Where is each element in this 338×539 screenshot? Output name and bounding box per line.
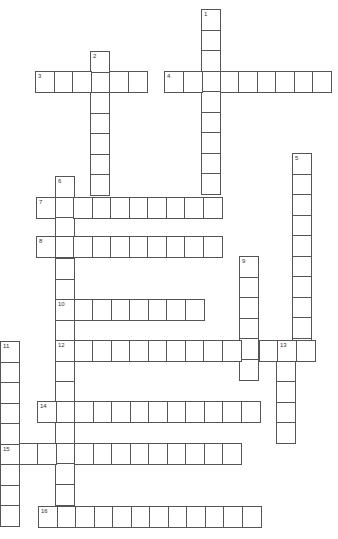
crossword-cell[interactable] (92, 197, 112, 219)
crossword-cell[interactable] (109, 71, 129, 93)
crossword-cell[interactable] (185, 340, 205, 362)
crossword-cell[interactable] (74, 340, 94, 362)
crossword-cell[interactable] (57, 506, 77, 528)
crossword-cell[interactable] (90, 174, 110, 196)
crossword-cell[interactable]: 15 (0, 444, 20, 466)
crossword-cell[interactable]: 1 (201, 9, 221, 31)
crossword-cell[interactable] (292, 215, 312, 237)
crossword-cell[interactable] (55, 422, 75, 444)
crossword-cell[interactable] (239, 277, 259, 299)
crossword-cell[interactable] (201, 50, 221, 72)
crossword-cell[interactable] (222, 340, 242, 362)
crossword-cell[interactable] (0, 362, 20, 384)
crossword-cell[interactable] (167, 401, 187, 423)
crossword-cell[interactable] (0, 423, 20, 445)
crossword-cell[interactable] (55, 279, 75, 301)
crossword-cell[interactable]: 12 (55, 340, 75, 362)
crossword-cell[interactable] (55, 484, 75, 506)
crossword-cell[interactable] (201, 91, 221, 113)
crossword-cell[interactable] (204, 401, 224, 423)
crossword-cell[interactable]: 10 (55, 299, 75, 321)
crossword-cell[interactable] (292, 276, 312, 298)
crossword-cell[interactable] (149, 506, 169, 528)
crossword-cell[interactable] (37, 443, 57, 465)
crossword-cell[interactable] (92, 299, 112, 321)
crossword-cell[interactable]: 11 (0, 341, 20, 363)
crossword-cell[interactable] (0, 464, 20, 486)
crossword-cell[interactable] (222, 401, 242, 423)
crossword-cell[interactable] (203, 197, 223, 219)
crossword-cell[interactable] (201, 173, 221, 195)
crossword-cell[interactable] (201, 153, 221, 175)
crossword-cell[interactable] (239, 359, 259, 381)
crossword-cell[interactable] (183, 71, 203, 93)
crossword-cell[interactable] (73, 236, 93, 258)
crossword-cell[interactable] (56, 401, 76, 423)
crossword-cell[interactable] (292, 317, 312, 339)
crossword-cell[interactable] (204, 443, 224, 465)
crossword-cell[interactable] (147, 197, 167, 219)
crossword-cell[interactable] (166, 299, 186, 321)
crossword-cell[interactable] (241, 401, 261, 423)
crossword-cell[interactable] (55, 320, 75, 342)
crossword-cell[interactable] (148, 443, 168, 465)
crossword-cell[interactable] (239, 318, 259, 340)
crossword-cell[interactable] (129, 236, 149, 258)
crossword-cell[interactable] (0, 403, 20, 425)
crossword-cell[interactable]: 7 (36, 197, 56, 219)
crossword-cell[interactable] (276, 361, 296, 383)
crossword-cell[interactable] (238, 71, 258, 93)
crossword-cell[interactable] (130, 401, 150, 423)
crossword-cell[interactable] (292, 256, 312, 278)
crossword-cell[interactable] (55, 443, 75, 465)
crossword-cell[interactable] (55, 463, 75, 485)
crossword-cell[interactable]: 16 (38, 506, 58, 528)
crossword-cell[interactable] (294, 71, 314, 93)
crossword-cell[interactable] (276, 381, 296, 403)
crossword-cell[interactable] (111, 299, 131, 321)
crossword-cell[interactable] (186, 506, 206, 528)
crossword-cell[interactable] (292, 235, 312, 257)
crossword-cell[interactable] (166, 197, 186, 219)
crossword-cell[interactable] (128, 71, 148, 93)
crossword-cell[interactable] (19, 443, 39, 465)
crossword-cell[interactable] (147, 236, 167, 258)
crossword-cell[interactable] (148, 340, 168, 362)
crossword-cell[interactable] (90, 92, 110, 114)
crossword-cell[interactable] (55, 381, 75, 403)
crossword-cell[interactable] (222, 443, 242, 465)
crossword-cell[interactable]: 13 (277, 340, 297, 362)
crossword-cell[interactable] (223, 506, 243, 528)
crossword-cell[interactable] (90, 154, 110, 176)
crossword-cell[interactable] (111, 443, 131, 465)
crossword-cell[interactable] (276, 422, 296, 444)
crossword-cell[interactable] (75, 506, 95, 528)
crossword-cell[interactable] (94, 506, 114, 528)
crossword-cell[interactable] (130, 443, 150, 465)
crossword-cell[interactable] (203, 340, 223, 362)
crossword-cell[interactable] (185, 443, 205, 465)
crossword-cell[interactable] (292, 194, 312, 216)
crossword-cell[interactable] (201, 112, 221, 134)
crossword-cell[interactable]: 9 (239, 256, 259, 278)
crossword-cell[interactable] (205, 506, 225, 528)
crossword-cell[interactable] (167, 443, 187, 465)
crossword-cell[interactable] (0, 485, 20, 507)
crossword-cell[interactable] (55, 197, 75, 219)
crossword-cell[interactable] (201, 132, 221, 154)
crossword-cell[interactable] (93, 443, 113, 465)
crossword-cell[interactable] (55, 258, 75, 280)
crossword-cell[interactable] (312, 71, 332, 93)
crossword-cell[interactable] (201, 30, 221, 52)
crossword-cell[interactable] (90, 133, 110, 155)
crossword-cell[interactable] (0, 382, 20, 404)
crossword-cell[interactable] (201, 71, 221, 93)
crossword-cell[interactable]: 3 (35, 71, 55, 93)
crossword-cell[interactable] (129, 299, 149, 321)
crossword-cell[interactable] (73, 197, 93, 219)
crossword-cell[interactable] (148, 299, 168, 321)
crossword-cell[interactable] (275, 71, 295, 93)
crossword-cell[interactable] (184, 197, 204, 219)
crossword-cell[interactable] (292, 297, 312, 319)
crossword-cell[interactable] (296, 340, 316, 362)
